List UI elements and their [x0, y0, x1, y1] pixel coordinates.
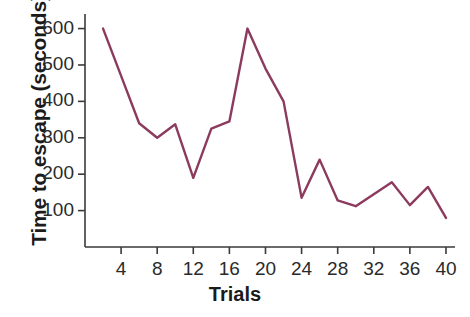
axis-lines [85, 14, 455, 247]
x-tick-label: 40 [416, 258, 470, 280]
y-tick-label: 600 [14, 17, 74, 39]
data-series-line [103, 29, 446, 218]
y-tick-label: 100 [14, 199, 74, 221]
chart-figure: Time to escape (seconds) 100200300400500… [0, 0, 470, 317]
y-tick-label: 400 [14, 89, 74, 111]
y-tick-label: 200 [14, 162, 74, 184]
y-axis-ticks [78, 29, 85, 211]
y-tick-label: 500 [14, 53, 74, 75]
y-tick-label: 300 [14, 126, 74, 148]
x-axis-title: Trials [0, 283, 470, 306]
x-axis-ticks [121, 247, 446, 254]
